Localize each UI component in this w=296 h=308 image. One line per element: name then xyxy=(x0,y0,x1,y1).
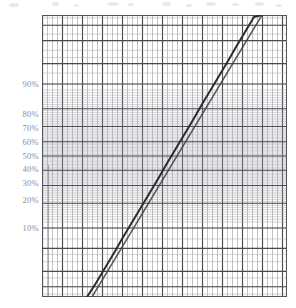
y-axis-tick-label-50: 50% xyxy=(23,151,39,161)
y-axis-tick-label-70: 70% xyxy=(23,123,39,133)
scan-speck xyxy=(128,3,134,6)
scan-speck xyxy=(276,4,282,7)
scan-artifact-noise xyxy=(0,0,296,11)
scan-speck xyxy=(255,2,264,6)
y-axis-tick-labels: 90%80%70%60%50%40%30%20%10% xyxy=(0,0,42,308)
scan-speck xyxy=(232,3,239,6)
scan-speck xyxy=(162,2,171,6)
plot-grid-area xyxy=(42,15,287,297)
y-axis-tick-label-90: 90% xyxy=(23,79,39,89)
y-axis-tick-label-20: 20% xyxy=(23,195,39,205)
plot-svg xyxy=(42,15,287,297)
scan-speck xyxy=(74,4,79,7)
scan-speck xyxy=(107,2,119,6)
scan-speck xyxy=(186,4,192,7)
scan-speck xyxy=(52,2,59,6)
probability-plot-figure: 90%80%70%60%50%40%30%20%10% xyxy=(0,0,296,308)
y-axis-tick-label-60: 60% xyxy=(23,137,39,147)
y-axis-tick-label-80: 80% xyxy=(23,109,39,119)
y-axis-tick-label-30: 30% xyxy=(23,178,39,188)
y-axis-tick-label-40: 40% xyxy=(23,164,39,174)
horizontal-gridlines xyxy=(42,18,287,294)
scan-speck xyxy=(206,2,216,6)
y-axis-tick-label-10: 10% xyxy=(23,223,39,233)
